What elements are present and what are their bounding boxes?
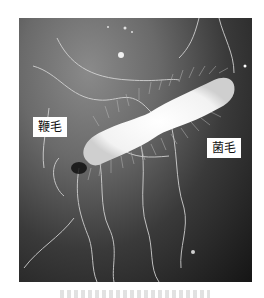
label-pili: 菌毛 [207, 138, 241, 158]
figure-caption-faded [60, 290, 210, 298]
label-flagella: 鞭毛 [33, 117, 67, 137]
